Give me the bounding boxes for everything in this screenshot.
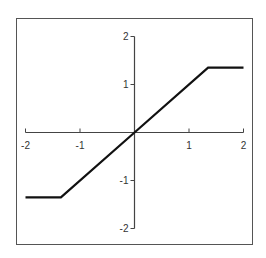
x-tick-label: 2	[241, 140, 247, 151]
x-tick-label: 1	[186, 140, 192, 151]
x-tick-label: -1	[76, 140, 85, 151]
y-tick-label: 2	[123, 31, 129, 42]
y-tick-label: -1	[120, 175, 129, 186]
y-tick-label: -2	[120, 223, 129, 234]
chart-canvas: -2-112-2-112	[0, 0, 266, 258]
x-tick-label: -2	[21, 140, 30, 151]
y-tick-label: 1	[123, 79, 129, 90]
